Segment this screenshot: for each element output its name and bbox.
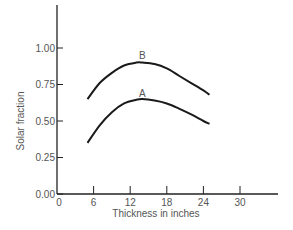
x-tick-label: 12: [125, 197, 137, 208]
x-tick-label: 6: [91, 197, 97, 208]
series-line-a: [88, 99, 210, 143]
x-tick-label: 18: [161, 197, 173, 208]
x-tick-label: 24: [198, 197, 210, 208]
y-tick-label: 0.00: [36, 189, 56, 200]
x-ticks: 0612182430: [56, 186, 246, 208]
series-line-b: [88, 62, 210, 99]
x-tick-label: 30: [234, 197, 246, 208]
solar-fraction-chart: 0.000.250.500.751.00 0612182430 BA Solar…: [0, 0, 293, 230]
y-tick-label: 1.00: [36, 43, 56, 54]
y-tick-label: 0.25: [36, 152, 56, 163]
y-axis-title: Solar fraction: [15, 92, 26, 151]
x-tick-label: 0: [56, 197, 62, 208]
y-tick-label: 0.50: [36, 116, 56, 127]
y-tick-label: 0.75: [36, 79, 56, 90]
series-label-b: B: [139, 50, 146, 61]
y-ticks: 0.000.250.500.751.00: [36, 43, 63, 200]
series-lines: BA: [88, 50, 210, 143]
axes: [57, 5, 278, 194]
series-label-a: A: [139, 88, 146, 99]
x-axis-title: Thickness in inches: [112, 208, 199, 219]
